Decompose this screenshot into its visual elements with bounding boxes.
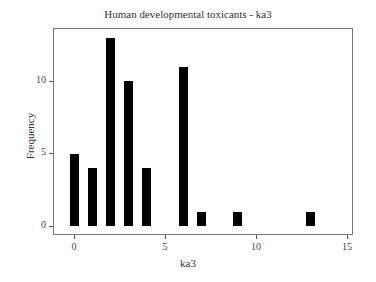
histogram-bar [306, 212, 315, 227]
y-axis-title: Frequency [24, 106, 36, 166]
x-tick-5 [165, 235, 166, 239]
plot-area [53, 28, 353, 235]
x-tick-0 [74, 235, 75, 239]
y-tick-label: 10 [26, 74, 46, 85]
histogram-bar [233, 212, 242, 227]
histogram-bar [106, 38, 115, 227]
y-tick-label: 0 [26, 219, 46, 230]
y-tick-10 [49, 81, 53, 82]
x-tick-label: 10 [244, 241, 268, 252]
histogram-bar [88, 168, 97, 226]
y-tick-0 [49, 226, 53, 227]
histogram-bar [124, 81, 133, 226]
y-tick-5 [49, 153, 53, 154]
x-axis-title: ka3 [0, 257, 376, 269]
histogram-bar [142, 168, 151, 226]
x-tick-label: 0 [62, 241, 86, 252]
histogram-bar [179, 67, 188, 227]
histogram-bar [70, 154, 79, 227]
x-tick-10 [256, 235, 257, 239]
histogram-bar [197, 212, 206, 227]
x-tick-label: 5 [153, 241, 177, 252]
chart-title: Human developmental toxicants - ka3 [0, 8, 376, 20]
x-tick-label: 15 [335, 241, 359, 252]
x-tick-15 [347, 235, 348, 239]
